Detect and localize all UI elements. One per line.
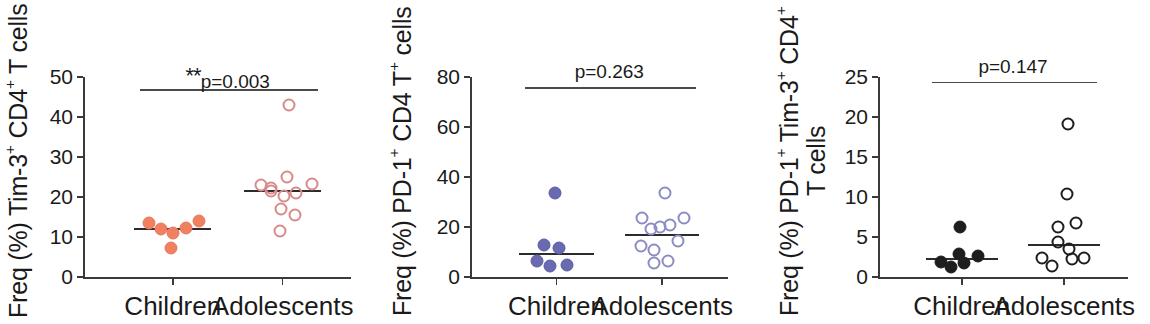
data-point [531, 254, 544, 267]
x-axis-spine [83, 277, 351, 279]
y-axis-tick-label: 25 [828, 65, 868, 89]
y-axis-tick-label: 20 [414, 215, 460, 239]
y-axis-tick-label: 5 [828, 225, 868, 249]
y-axis-tick [464, 226, 470, 228]
p-value-label: **p=0.003 [186, 63, 270, 93]
y-axis-title-segment: T cells [802, 126, 830, 196]
x-axis-category-label: Adolescents [591, 291, 733, 322]
y-axis-title-superscript: + [772, 6, 789, 15]
y-axis-tick-label: 50 [27, 65, 73, 89]
p-value-text: p=0.003 [201, 71, 270, 92]
data-point [193, 215, 206, 228]
y-axis-title-superscript: + [772, 71, 789, 80]
significance-bar [525, 87, 696, 89]
data-point [538, 238, 551, 251]
y-axis-tick [464, 176, 470, 178]
x-axis-category-label: Children [508, 291, 605, 322]
y-axis-tick [464, 276, 470, 278]
y-axis-tick-label: 20 [27, 185, 73, 209]
significance-bar [932, 82, 1098, 84]
y-axis-title-segment: CD4 [775, 15, 803, 71]
y-axis-title-segment: CD4 T [388, 71, 416, 149]
data-point [1077, 251, 1090, 264]
y-axis-tick-label: 60 [414, 115, 460, 139]
data-point [290, 187, 303, 200]
data-point [1065, 253, 1078, 266]
median-line-adolescents [625, 234, 699, 236]
y-axis-tick-label: 0 [27, 265, 73, 289]
y-axis-tick [77, 76, 83, 78]
data-point [648, 243, 661, 256]
data-point [561, 258, 574, 271]
x-axis-category-label: Children [124, 291, 221, 322]
y-axis-title: Freq (%) PD-1+ CD4 T+ cells [386, 2, 416, 320]
data-point [552, 241, 565, 254]
y-axis-title-superscript: + [1, 80, 18, 89]
data-point [954, 221, 967, 234]
y-axis-tick-label: 10 [27, 225, 73, 249]
y-axis-tick-label: 10 [828, 185, 868, 209]
p-value-label: p=0.147 [978, 56, 1047, 78]
y-axis-spine [470, 77, 472, 277]
y-axis-tick [872, 276, 878, 278]
y-axis-tick-label: 0 [414, 265, 460, 289]
p-value-text: p=0.263 [575, 61, 644, 82]
data-point [645, 222, 658, 235]
y-axis-tick [872, 156, 878, 158]
data-point [1052, 221, 1065, 234]
y-axis-tick-label: 15 [828, 145, 868, 169]
data-point [264, 184, 277, 197]
y-axis-title-superscript: + [1, 145, 18, 154]
x-axis-tick [1063, 279, 1065, 285]
y-axis-tick [77, 116, 83, 118]
data-point [957, 256, 970, 269]
data-point [1061, 187, 1074, 200]
p-value-label: p=0.263 [575, 61, 644, 83]
data-point [289, 209, 302, 222]
x-axis-tick [961, 279, 963, 285]
y-axis-title-superscript: + [385, 148, 402, 157]
y-axis-tick [872, 116, 878, 118]
y-axis-spine [878, 77, 880, 277]
y-axis-tick [872, 76, 878, 78]
y-axis-tick [77, 156, 83, 158]
y-axis-tick-label: 80 [414, 65, 460, 89]
data-point [274, 225, 287, 238]
data-point [179, 222, 192, 235]
y-axis-tick [77, 196, 83, 198]
figure-root: Freq (%) Tim-3+ CD4+ T cells01020304050*… [0, 0, 1150, 324]
data-point [280, 171, 293, 184]
data-point [945, 261, 958, 274]
y-axis-tick [464, 126, 470, 128]
x-axis-spine [470, 277, 728, 279]
x-axis-category-label: Adolescents [993, 291, 1135, 322]
y-axis-spine [83, 77, 85, 277]
y-axis-tick-label: 40 [414, 165, 460, 189]
data-point [1045, 259, 1058, 272]
data-point [634, 239, 647, 252]
data-point [677, 211, 690, 224]
data-point [658, 187, 671, 200]
y-axis-title-segment: cells [388, 6, 416, 62]
data-point [544, 259, 557, 272]
data-point [305, 177, 318, 190]
plot-area: 0510152025p=0.147ChildrenAdolescents [878, 77, 1128, 277]
data-point [1061, 118, 1074, 131]
y-axis-tick [872, 196, 878, 198]
data-point [671, 235, 684, 248]
x-axis-spine [878, 277, 1128, 279]
y-axis-title-superscript: + [385, 62, 402, 71]
y-axis-tick-label: 20 [828, 105, 868, 129]
data-point [663, 218, 676, 231]
y-axis-tick [77, 236, 83, 238]
plot-area: 01020304050**p=0.003ChildrenAdolescents [83, 77, 351, 277]
x-axis-tick [661, 279, 663, 285]
data-point [661, 255, 674, 268]
x-axis-tick [556, 279, 558, 285]
data-point [165, 241, 178, 254]
data-point [283, 99, 296, 112]
y-axis-tick [464, 76, 470, 78]
data-point [1070, 217, 1083, 230]
data-point [548, 186, 561, 199]
data-point [275, 203, 288, 216]
